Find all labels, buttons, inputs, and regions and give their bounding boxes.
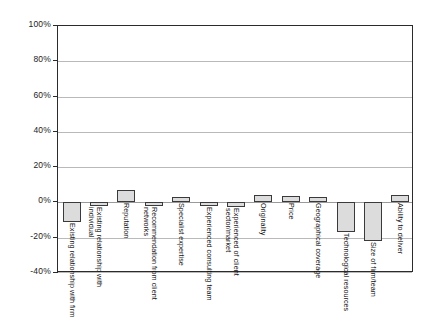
- category-label: Reputation: [122, 203, 130, 299]
- category-label: Existing relationship with firm: [67, 223, 75, 319]
- y-tick-mark--40%: [53, 272, 57, 273]
- category-label: Existing relationship with individual: [87, 207, 103, 303]
- y-tick-mark-80%: [53, 60, 57, 61]
- category-label: Originality: [259, 203, 267, 299]
- y-tick-mark-40%: [53, 131, 57, 132]
- category-label: Ability to deliver: [396, 203, 404, 299]
- category-label: Technological resources: [341, 233, 349, 321]
- category-label: Size of firm/team: [369, 242, 377, 321]
- category-label: Experienced consulting team: [204, 207, 212, 303]
- y-tick-mark-60%: [53, 96, 57, 97]
- y-tick-mark-0%: [53, 201, 57, 202]
- y-tick-mark-100%: [53, 25, 57, 26]
- category-label: Geographical coverage: [314, 203, 322, 299]
- category-label: Recommendation from client networks: [141, 207, 157, 303]
- y-tick-mark--20%: [53, 237, 57, 238]
- y-tick-mark-20%: [53, 166, 57, 167]
- category-label: Experienced of client sector/market: [224, 208, 240, 304]
- category-label: Specialist expertise: [177, 203, 185, 299]
- category-label: Price: [287, 203, 295, 299]
